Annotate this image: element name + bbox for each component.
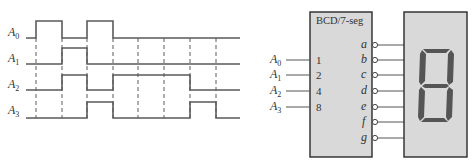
output-label-b: b (361, 52, 367, 66)
segment-g (422, 84, 449, 88)
input-pin-4: 4 (316, 85, 322, 97)
input-pin-2: 2 (316, 69, 322, 81)
output-bubble-d (372, 88, 377, 93)
signal-a1: A1 (7, 48, 240, 67)
signal-label-a2: A2 (7, 77, 19, 93)
segment-f (419, 50, 426, 85)
segment-b (447, 50, 454, 85)
output-label-c: c (361, 67, 367, 81)
segment-c (446, 87, 453, 121)
output-bubble-b (372, 57, 377, 62)
input-label-a1: A1 (269, 67, 281, 83)
output-bubble-g (372, 135, 377, 140)
waveform-a2 (26, 75, 240, 90)
output-label-e: e (361, 99, 367, 113)
input-label-a2: A2 (269, 83, 281, 99)
segment-d (421, 118, 448, 122)
diagram-canvas: A0 A1 A2 A3 BCD/7-seg A0 1 A1 2 (0, 0, 474, 166)
waveform-a3 (26, 102, 240, 118)
seven-segment-display (404, 12, 467, 157)
waveform-a1 (26, 48, 240, 64)
signal-a0: A0 (7, 21, 240, 41)
segment-e (418, 87, 425, 121)
input-label-a0: A0 (269, 52, 281, 68)
output-label-a: a (361, 37, 367, 51)
input-pin-8: 8 (316, 101, 322, 113)
input-pin-1: 1 (316, 54, 322, 66)
output-label-d: d (361, 83, 368, 97)
signal-a3: A3 (7, 102, 240, 119)
signal-label-a1: A1 (7, 51, 19, 67)
output-bubble-e (372, 104, 377, 109)
signal-label-a3: A3 (7, 103, 19, 119)
output-bubble-c (372, 72, 377, 77)
decoder-title: BCD/7-seg (316, 15, 364, 26)
output-bubble-a (372, 42, 377, 47)
input-label-a3: A3 (269, 99, 281, 115)
time-markers (36, 38, 216, 118)
signal-label-a0: A0 (7, 25, 19, 41)
output-bubble-f (372, 119, 377, 124)
bcd-7seg-decoder: BCD/7-seg A0 1 A1 2 A2 4 A3 8 a b c (269, 12, 404, 157)
signal-a2: A2 (7, 75, 240, 93)
segment-a (423, 49, 450, 53)
output-label-g: g (361, 130, 367, 144)
timing-diagram: A0 A1 A2 A3 (7, 21, 240, 119)
waveform-a0 (26, 21, 240, 38)
